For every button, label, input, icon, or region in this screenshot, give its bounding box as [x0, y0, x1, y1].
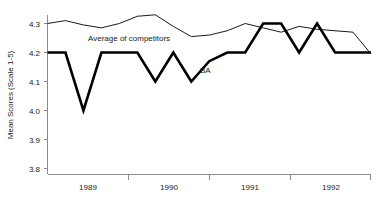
x-tick-label-1989: 1989 — [79, 183, 97, 192]
y-tick-label-3-9: 3.9 — [29, 136, 41, 145]
x-tick-label-1991: 1991 — [241, 183, 259, 192]
y-axis-title: Mean Scores (Scale 1-5) — [6, 50, 15, 139]
x-tick-label-1990: 1990 — [160, 183, 178, 192]
x-tick-label-1992: 1992 — [322, 183, 340, 192]
y-tick-label-3-8: 3.8 — [29, 165, 41, 174]
y-axis-ticks — [44, 24, 48, 169]
y-tick-label-4-0: 4.0 — [29, 107, 41, 116]
y-tick-label-4-2: 4.2 — [29, 49, 41, 58]
line-chart: 4.3 4.2 4.1 4.0 3.9 3.8 Mean Scores (Sca… — [0, 0, 379, 204]
series-label-ba: BA — [200, 66, 211, 75]
y-tick-label-4-3: 4.3 — [29, 20, 41, 29]
chart-container: 4.3 4.2 4.1 4.0 3.9 3.8 Mean Scores (Sca… — [0, 0, 379, 204]
x-axis-ticks — [129, 175, 371, 181]
series-label-average-of-competitors: Average of competitors — [88, 34, 170, 43]
y-tick-label-4-1: 4.1 — [29, 78, 41, 87]
